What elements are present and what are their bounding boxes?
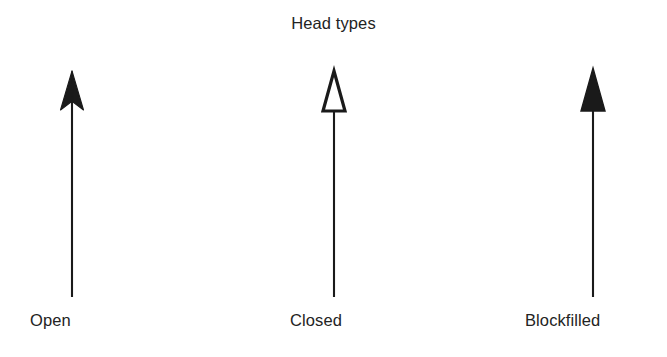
open-arrow-icon	[32, 62, 112, 302]
arrow-head-filled-triangle	[581, 68, 605, 111]
arrow-head-barb-left	[61, 71, 73, 110]
arrow-label-closed: Closed	[290, 311, 342, 330]
closed-arrow-icon	[294, 62, 374, 302]
arrow-sample-blockfilled: Blockfilled	[531, 0, 667, 357]
arrow-head-hollow-triangle	[323, 71, 345, 111]
head-types-figure: Head types Open Closed Blockfilled	[0, 0, 667, 357]
arrow-sample-closed: Closed	[272, 0, 432, 357]
arrow-sample-open: Open	[10, 0, 170, 357]
blockfilled-arrow-icon	[553, 62, 633, 302]
arrow-label-blockfilled: Blockfilled	[525, 311, 600, 330]
arrow-head-barb-right	[72, 71, 84, 110]
arrow-label-open: Open	[30, 311, 71, 330]
